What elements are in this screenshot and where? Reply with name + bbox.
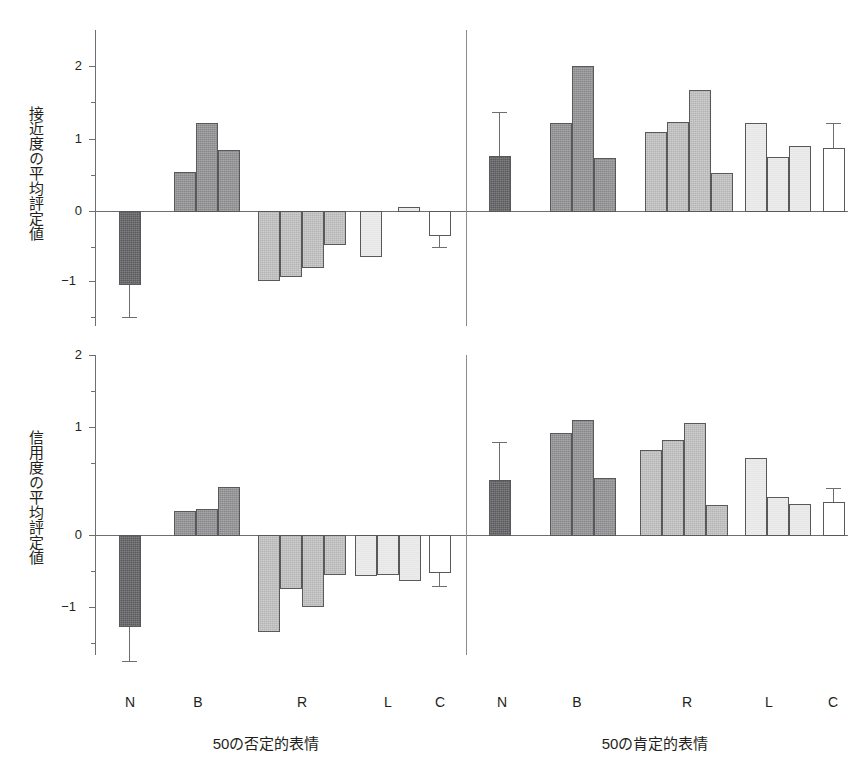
tick-top-0p5 (91, 175, 96, 176)
bar-bottom-right-R-1 (640, 450, 662, 536)
bar-top-left-R-3 (302, 211, 324, 268)
tick-label-bottom-2: 2 (56, 348, 82, 361)
errorbar-stem-bottom-right-N (499, 442, 500, 480)
errorbar-cap-bottom-right-C (826, 488, 841, 489)
errorbar-cap-top-right-C (826, 123, 841, 124)
bar-top-right-R-3 (689, 90, 711, 212)
tick-bottom-2 (89, 355, 96, 356)
y-axis-line-bottom (95, 355, 96, 655)
errorbar-stem-top-left-N (129, 285, 130, 317)
bar-bottom-right-L-1 (745, 458, 767, 536)
cat-label-left-R: R (287, 694, 317, 710)
tick-bottom-0p5 (91, 463, 96, 464)
bar-top-left-B-2 (196, 123, 218, 212)
bar-top-right-C-1 (823, 148, 845, 212)
cat-label-left-B: B (183, 694, 213, 710)
tick-bottom-0 (89, 535, 96, 536)
tick-bottom-m0p5 (91, 571, 96, 572)
bar-top-right-R-1 (645, 132, 667, 212)
bar-top-left-B-3 (218, 150, 240, 212)
group-caption-negative: 50の否定的表情 (186, 735, 346, 753)
bar-bottom-right-R-4 (706, 505, 728, 536)
bar-bottom-right-N-1 (489, 480, 511, 536)
bar-bottom-left-L-1 (355, 535, 377, 576)
group-caption-positive: 50の肯定的表情 (575, 735, 735, 753)
bar-bottom-left-C-1 (429, 535, 451, 573)
bar-top-right-B-3 (594, 158, 616, 212)
bar-bottom-right-L-2 (767, 497, 789, 536)
cat-label-left-N: N (115, 694, 145, 710)
tick-bottom-m1 (89, 607, 96, 608)
bar-top-right-L-3 (789, 146, 811, 212)
tick-top-1 (89, 139, 96, 140)
tick-top-m0p5 (91, 247, 96, 248)
tick-label-top-0: 0 (56, 204, 82, 217)
bar-bottom-right-R-2 (662, 440, 684, 536)
bar-top-right-L-1 (745, 123, 767, 212)
tick-label-bottom-1: 1 (56, 420, 82, 433)
tick-label-top-1: 1 (56, 132, 82, 145)
bar-bottom-left-B-2 (196, 509, 218, 536)
bar-bottom-left-L-3 (399, 535, 421, 581)
bar-bottom-right-B-3 (594, 478, 616, 536)
bar-top-left-R-2 (280, 211, 302, 277)
bar-top-right-N-1 (489, 156, 511, 212)
errorbar-cap-bottom-left-N (122, 661, 137, 662)
bar-top-left-N-1 (119, 211, 141, 285)
cat-label-right-B: B (562, 694, 592, 710)
tick-top-0 (89, 211, 96, 212)
bar-top-left-C-1 (429, 211, 451, 236)
tick-top-2 (89, 66, 96, 67)
bar-top-right-R-2 (667, 122, 689, 212)
tick-bottom-m1p5 (91, 643, 96, 644)
cat-label-right-L: L (754, 694, 784, 710)
tick-label-bottom-0: 0 (56, 528, 82, 541)
bar-bottom-right-L-3 (789, 504, 811, 536)
panel-divider-bottom (466, 355, 467, 655)
cat-label-left-L: L (373, 694, 403, 710)
panel-divider-top (466, 30, 467, 326)
errorbar-stem-bottom-right-C (833, 488, 834, 502)
cat-label-right-N: N (487, 694, 517, 710)
bar-bottom-left-R-3 (302, 535, 324, 607)
bar-top-right-B-1 (550, 123, 572, 212)
tick-label-top-m1: −1 (50, 274, 76, 287)
bar-top-left-L-1 (360, 211, 382, 257)
errorbar-cap-top-left-N (122, 317, 137, 318)
tick-bottom-1 (89, 427, 96, 428)
figure-root: 接近度の平均評定値 2 1 0 −1 (0, 0, 860, 773)
bar-bottom-left-B-3 (218, 487, 240, 536)
tick-bottom-1p5 (91, 391, 96, 392)
cat-label-left-C: C (425, 694, 455, 710)
errorbar-cap-top-right-N (492, 112, 507, 113)
bar-top-right-R-4 (711, 173, 733, 212)
bar-bottom-left-R-4 (324, 535, 346, 575)
cat-label-right-R: R (672, 694, 702, 710)
bar-bottom-right-B-1 (550, 433, 572, 536)
bar-bottom-right-B-2 (572, 420, 594, 536)
errorbar-stem-top-right-C (833, 123, 834, 148)
bar-bottom-left-L-2 (377, 535, 399, 575)
tick-top-m1p5 (91, 317, 96, 318)
bar-bottom-right-R-3 (684, 423, 706, 536)
bar-bottom-right-C-1 (823, 502, 845, 536)
bar-bottom-left-R-2 (280, 535, 302, 589)
y-axis-label-top: 接近度の平均評定値 (20, 88, 44, 258)
bar-top-left-L-2 (398, 207, 420, 212)
bar-top-left-R-1 (258, 211, 280, 281)
bar-top-right-L-2 (767, 157, 789, 212)
bar-top-left-B-1 (174, 172, 196, 212)
tick-top-m1 (89, 281, 96, 282)
bar-bottom-left-N-1 (119, 535, 141, 627)
bar-bottom-left-R-1 (258, 535, 280, 632)
errorbar-stem-top-right-N (499, 112, 500, 156)
tick-label-bottom-m1: −1 (50, 600, 76, 613)
bar-bottom-left-B-1 (174, 511, 196, 536)
cat-label-right-C: C (818, 694, 848, 710)
y-axis-label-bottom: 信用度の平均評定値 (20, 412, 44, 582)
errorbar-stem-bottom-left-N (129, 627, 130, 661)
tick-label-top-2: 2 (56, 59, 82, 72)
bar-top-right-B-2 (572, 66, 594, 212)
tick-top-1p5 (91, 102, 96, 103)
errorbar-cap-top-left-C (432, 247, 447, 248)
